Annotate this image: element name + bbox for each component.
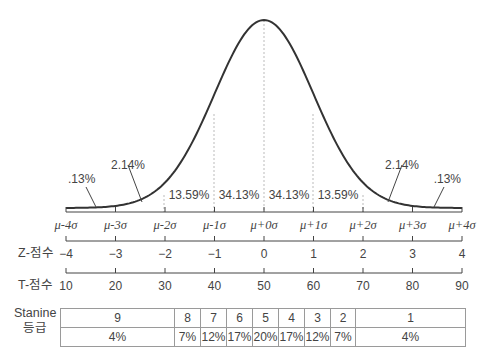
- grade-cell: 7: [201, 309, 227, 328]
- grade-cell: 1: [356, 309, 466, 328]
- tick-label: 70: [356, 279, 370, 293]
- pct-label: 13.59%: [169, 188, 210, 202]
- percent-cell: 7%: [175, 328, 201, 347]
- t-axis: [66, 268, 462, 273]
- tick-label: 0: [261, 247, 268, 261]
- area-percent-labels: .13% 2.14% 13.59% 34.13% 34.13% 13.59% 2…: [68, 158, 461, 202]
- tick-label: −1: [208, 247, 222, 261]
- tick-label: 1: [310, 247, 317, 261]
- grade-cell: 3: [305, 309, 331, 328]
- tick-label: 50: [257, 279, 271, 293]
- tick-label: 60: [307, 279, 321, 293]
- grade-cell: 2: [331, 309, 356, 328]
- tick-label: 80: [406, 279, 420, 293]
- pct-label: 2.14%: [385, 158, 419, 172]
- tick-label: 4: [459, 247, 466, 261]
- z-axis-label: Z-점수: [18, 246, 54, 260]
- percent-cell: 12%: [305, 328, 331, 347]
- tick-label: μ-2σ: [153, 218, 178, 232]
- z-tick-labels: −4−3−2−101234: [59, 247, 466, 261]
- percent-cell: 20%: [253, 328, 279, 347]
- percent-cell: 7%: [331, 328, 356, 347]
- tick-label: 10: [59, 279, 73, 293]
- pct-label: .13%: [68, 172, 96, 186]
- stanine-label: Stanine 등급: [14, 306, 56, 336]
- tick-label: μ+4σ: [447, 218, 476, 232]
- percent-cell: 4%: [356, 328, 466, 347]
- tick-label: 20: [109, 279, 123, 293]
- tick-label: 90: [455, 279, 469, 293]
- tick-label: 2: [360, 247, 367, 261]
- pct-label: 34.13%: [269, 188, 310, 202]
- z-axis: [66, 236, 462, 241]
- tick-label: 40: [208, 279, 222, 293]
- sigma-axis: [66, 207, 462, 212]
- tick-label: μ+1σ: [299, 218, 328, 232]
- tick-label: −4: [59, 247, 73, 261]
- stanine-percent-row: 4% 7% 12% 17% 20% 17% 12% 7% 4%: [61, 328, 466, 347]
- pct-label: 2.14%: [111, 158, 145, 172]
- stanine-table: 9 8 7 6 5 4 3 2 1 4% 7% 12% 17% 20% 17% …: [60, 308, 466, 347]
- stanine-grade-row: 9 8 7 6 5 4 3 2 1: [61, 309, 466, 328]
- tick-label: μ+3σ: [398, 218, 427, 232]
- tick-label: −3: [109, 247, 123, 261]
- pct-label: 34.13%: [219, 188, 260, 202]
- sigma-guides: [164, 20, 363, 212]
- grade-cell: 5: [253, 309, 279, 328]
- grade-cell: 4: [279, 309, 305, 328]
- tick-label: μ-4σ: [54, 218, 79, 232]
- sigma-tick-labels: μ-4σμ-3σμ-2σμ-1σμ+0σμ+1σμ+2σμ+3σμ+4σ: [54, 218, 477, 232]
- tick-label: μ+2σ: [348, 218, 377, 232]
- t-axis-label: T-점수: [18, 278, 53, 292]
- grade-cell: 9: [61, 309, 175, 328]
- percent-cell: 12%: [201, 328, 227, 347]
- tick-label: 3: [409, 247, 416, 261]
- grade-cell: 8: [175, 309, 201, 328]
- percent-cell: 17%: [279, 328, 305, 347]
- stanine-label-line1: Stanine: [14, 306, 56, 321]
- pct-label: 13.59%: [318, 188, 359, 202]
- stanine-label-line2: 등급: [14, 321, 56, 336]
- t-tick-labels: 102030405060708090: [59, 279, 469, 293]
- pct-label: .13%: [434, 172, 462, 186]
- grade-cell: 6: [227, 309, 253, 328]
- percent-cell: 17%: [227, 328, 253, 347]
- tick-label: −2: [158, 247, 172, 261]
- tick-label: 30: [158, 279, 172, 293]
- tick-label: μ-1σ: [202, 218, 227, 232]
- tick-label: μ+0σ: [249, 218, 278, 232]
- percent-cell: 4%: [61, 328, 175, 347]
- tick-label: μ-3σ: [103, 218, 128, 232]
